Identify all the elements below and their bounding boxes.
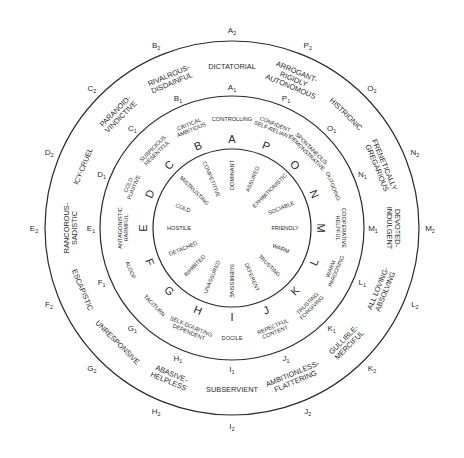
inner-word: DOMINANT bbox=[229, 160, 235, 190]
ring1-label-m-index: 1 bbox=[375, 228, 378, 234]
ring2-word: ARROGANT-RIGIDLYAUTONOMOUS bbox=[264, 57, 323, 101]
ring2-label-k: K2 bbox=[368, 364, 376, 374]
diagram-labels: ADOMINANTCONTROLLINGA1DICTATORIALA2PASSU… bbox=[30, 26, 435, 432]
inner-word: DEFERENT bbox=[244, 262, 261, 293]
ring1-word-line: DOCILE bbox=[222, 335, 243, 341]
ring1-label-c-index: 1 bbox=[134, 128, 137, 134]
inner-word: COMPETITIVE bbox=[202, 160, 222, 198]
ring2-word: SUBSERVIENT bbox=[206, 385, 259, 394]
inner-word: TRUSTING bbox=[257, 253, 281, 277]
octant-letter-e: E bbox=[137, 224, 149, 231]
ring2-label-i-index: 2 bbox=[232, 426, 235, 432]
inner-word-line: COLD bbox=[175, 202, 192, 213]
ring2-label-a: A2 bbox=[228, 26, 236, 36]
ring2-label-b-index: 2 bbox=[157, 45, 160, 51]
inner-word: COLD bbox=[175, 202, 192, 213]
inner-word-line: WARM bbox=[272, 242, 291, 254]
ring1-label-e-index: 1 bbox=[92, 228, 95, 234]
ring2-word-line: UNRESPONSIVE bbox=[94, 318, 142, 366]
ring1-label-f: F1 bbox=[98, 278, 106, 288]
octant-letter-g: G bbox=[162, 283, 177, 298]
ring2-label-b: B2 bbox=[152, 41, 160, 51]
octant-letter-k: K bbox=[288, 283, 302, 297]
ring1-label-d-index: 1 bbox=[103, 174, 106, 180]
ring1-label-f-index: 1 bbox=[103, 282, 106, 288]
inner-word: FRIENDLY bbox=[271, 225, 299, 231]
inner-word-line: FRIENDLY bbox=[271, 225, 299, 231]
ring2-label-l-index: 2 bbox=[416, 304, 419, 310]
inner-word: ASSURED bbox=[244, 165, 260, 192]
octant-letter-b-line: B bbox=[192, 139, 203, 153]
ring1-label-j-index: 1 bbox=[286, 358, 289, 364]
ring1-word-line: TACITURN bbox=[143, 293, 167, 317]
ring2-label-d: D2 bbox=[45, 148, 54, 158]
octant-letter-a-line: A bbox=[228, 133, 236, 145]
inner-word-line: SOCIABLE bbox=[267, 200, 295, 216]
ring1-label-p-index: 1 bbox=[287, 98, 290, 104]
ring1-word: CRITICALAMBITIOUS bbox=[174, 115, 207, 138]
inner-word: HOSTILE bbox=[167, 225, 191, 231]
ring1-word: REPECTFULCONTENT bbox=[256, 317, 291, 341]
inner-word: MISTRUSTING bbox=[179, 175, 210, 206]
ring1-label-h-index: 1 bbox=[179, 358, 182, 364]
ring2-word-line: ICY-CRUEL bbox=[71, 147, 94, 187]
inner-word-line: DOMINANT bbox=[229, 160, 235, 190]
ring2-label-a-index: 2 bbox=[233, 30, 236, 36]
ring2-word: DICTATORIAL bbox=[208, 62, 256, 71]
ring2-label-h: H2 bbox=[152, 407, 161, 417]
ring1-label-c: C1 bbox=[128, 124, 137, 134]
ring2-word-line: DICTATORIAL bbox=[208, 62, 256, 71]
ring2-label-e: E2 bbox=[30, 224, 38, 234]
ring1-word: ALOOF bbox=[124, 260, 137, 280]
inner-word-line: TRUSTING bbox=[257, 253, 281, 277]
inner-word-line: SUBMISSIVE bbox=[229, 264, 235, 298]
octant-letter-n-line: N bbox=[307, 188, 321, 200]
octant-letter-c-line: C bbox=[162, 158, 176, 172]
ring1-label-p: P1 bbox=[282, 94, 290, 104]
ring2-word-line: ESCAPISTIC bbox=[70, 268, 95, 313]
octant-letter-o-line: O bbox=[288, 158, 303, 173]
octant-letter-c: C bbox=[162, 158, 176, 172]
ring1-word: CONTROLLING bbox=[212, 116, 252, 122]
octant-letter-h-line: H bbox=[192, 303, 204, 317]
octant-letter-f-line: F bbox=[143, 257, 157, 268]
ring2-word-line: SUBSERVIENT bbox=[206, 385, 259, 394]
octant-letter-d-line: D bbox=[143, 188, 157, 200]
octant-letter-d: D bbox=[143, 188, 157, 200]
octant-letter-k-line: K bbox=[288, 283, 302, 297]
inner-word-line: COMPETITIVE bbox=[202, 160, 222, 198]
inner-word-line: ASSURED bbox=[244, 165, 260, 192]
ring1-label-k: K1 bbox=[327, 324, 335, 334]
ring1-label-g: G1 bbox=[128, 324, 137, 334]
ring1-word-line: HARMFUL bbox=[123, 214, 129, 241]
ring1-label-b: B1 bbox=[174, 94, 182, 104]
ring2-label-c: C2 bbox=[88, 84, 97, 94]
inner-word: SOCIABLE bbox=[267, 200, 295, 216]
ring1-label-e: E1 bbox=[87, 224, 95, 234]
ring2-word: AMBITIONLESS-FLATTERING bbox=[264, 358, 324, 396]
ring1-label-g-index: 1 bbox=[134, 328, 137, 334]
ring1-label-k-index: 1 bbox=[333, 328, 336, 334]
ring2-word: ALL LOVING-ABSOLVING bbox=[365, 265, 398, 314]
ring1-word: COLDPUNITIVE bbox=[120, 172, 141, 201]
ring1-label-i: I1 bbox=[229, 365, 234, 375]
inner-word-line: INHIBITED bbox=[183, 254, 207, 278]
ring2-label-h-index: 2 bbox=[158, 411, 161, 417]
ring2-label-g: G2 bbox=[87, 364, 96, 374]
ring1-word-line: OUTGOING bbox=[325, 171, 342, 201]
ring2-word-line: INDULGENT bbox=[385, 207, 394, 250]
ring1-word: WARMPARDONING bbox=[321, 252, 345, 288]
ring2-label-p: P2 bbox=[304, 41, 312, 51]
ring2-label-m-index: 2 bbox=[432, 228, 435, 234]
circumplex-diagram: ADOMINANTCONTROLLINGA1DICTATORIALA2PASSU… bbox=[0, 0, 464, 458]
octant-letter-i: I bbox=[230, 311, 233, 323]
ring1-label-a-index: 1 bbox=[233, 87, 236, 93]
ring1-label-o-index: 1 bbox=[333, 128, 336, 134]
ring1-word: COOPERATIVEHELPFUL bbox=[335, 208, 347, 248]
ring2-label-e-index: 2 bbox=[35, 228, 38, 234]
octant-letter-m-line: M bbox=[315, 223, 327, 232]
octant-letter-o: O bbox=[288, 158, 303, 173]
ring2-label-g-index: 2 bbox=[94, 368, 97, 374]
octant-letter-e-line: E bbox=[137, 224, 149, 231]
ring1-label-n: N1 bbox=[358, 170, 367, 180]
